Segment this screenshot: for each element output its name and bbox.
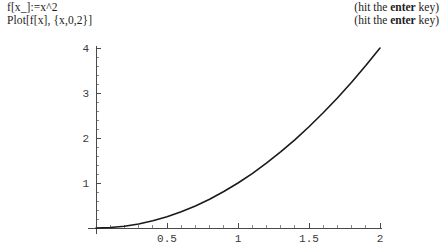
hint-1-emphasis: enter [390,1,416,13]
hint-1-suffix: key) [416,1,439,13]
hint-line-1: (hit the enter key) [354,1,439,14]
x-tick-label: 2 [377,233,384,245]
hint-line-2: (hit the enter key) [354,14,439,27]
code-input-block: f[x_]:=x^2 Plot[f[x], {x,0,2}] [7,1,92,27]
hint-2-emphasis: enter [390,14,416,26]
notebook-screenshot: f[x_]:=x^2 Plot[f[x], {x,0,2}] (hit the … [0,0,445,249]
x-axis-tick-labels: 0.511.52 [157,233,383,245]
y-tick-label: 3 [82,88,89,100]
y-axis-tick-labels: 1234 [82,43,89,190]
x-tick-label: 1 [235,233,242,245]
hint-annotations: (hit the enter key) (hit the enter key) [354,1,439,27]
y-tick-label: 4 [82,43,89,55]
plot-output: 0.511.52 1234 [0,36,445,249]
hint-2-suffix: key) [416,14,439,26]
parabola-curve [96,48,380,228]
y-tick-label: 2 [82,133,89,145]
code-line-definition[interactable]: f[x_]:=x^2 [7,1,92,14]
x-tick-label: 0.5 [157,233,177,245]
plot-svg: 0.511.52 1234 [0,36,445,249]
hint-2-prefix: (hit the [354,14,390,26]
y-tick-label: 1 [82,178,89,190]
hint-1-prefix: (hit the [354,1,390,13]
x-tick-label: 1.5 [299,233,319,245]
code-line-plot[interactable]: Plot[f[x], {x,0,2}] [7,14,92,27]
